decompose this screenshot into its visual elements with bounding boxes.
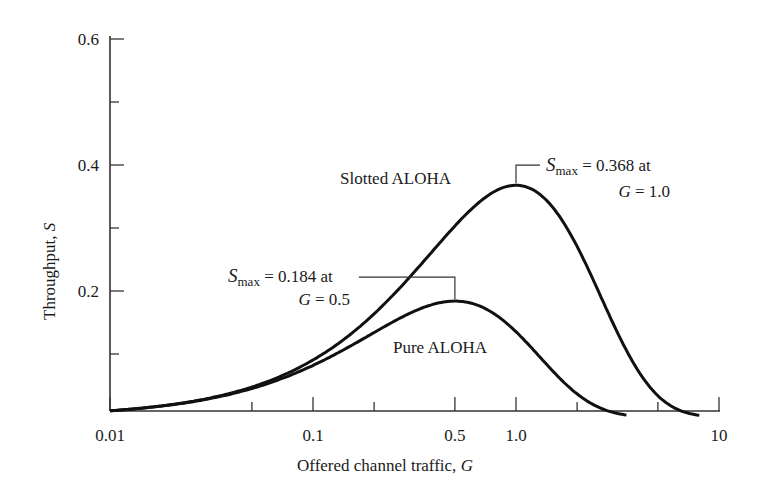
x-tick-label: 10 — [711, 426, 728, 445]
slotted-aloha-label: Slotted ALOHA — [340, 169, 452, 188]
y-axis-title: Throughput, S — [40, 222, 59, 320]
slotted-aloha-curve — [110, 185, 699, 415]
svg-text:Smax = 0.368 at: Smax = 0.368 at — [546, 154, 651, 178]
svg-text:G = 1.0: G = 1.0 — [618, 182, 670, 201]
annot-pure-sub: max — [238, 274, 261, 289]
x-tick-label: 0.01 — [95, 426, 125, 445]
annot-pure-g-value: = 0.5 — [311, 290, 350, 309]
y-axis: 0.20.40.6 — [78, 30, 124, 411]
y-ticks: 0.20.40.6 — [78, 30, 124, 354]
annot-slotted-g-var: G — [618, 182, 630, 201]
slotted-max-annotation: Smax = 0.368 at G = 1.0 — [546, 154, 670, 201]
x-ticks: 0.010.10.51.010 — [95, 397, 727, 445]
y-tick-label: 0.2 — [78, 282, 99, 301]
y-tick-label: 0.6 — [78, 30, 99, 49]
annot-slotted-g-value: = 1.0 — [631, 182, 670, 201]
svg-text:G = 0.5: G = 0.5 — [298, 290, 350, 309]
x-tick-label: 1.0 — [505, 426, 526, 445]
pure-aloha-label: Pure ALOHA — [393, 338, 488, 357]
annot-pure-var: S — [228, 265, 238, 286]
pure-max-annotation: Smax = 0.184 at G = 0.5 — [228, 265, 350, 309]
annot-slotted-sub: max — [556, 163, 579, 178]
aloha-throughput-chart: 0.20.40.6 0.010.10.51.010 Smax = 0.368 a… — [0, 0, 766, 496]
annot-pure-value: = 0.184 at — [260, 267, 333, 286]
x-tick-label: 0.1 — [302, 426, 323, 445]
x-axis: 0.010.10.51.010 — [95, 397, 727, 445]
annot-pure-g-var: G — [298, 290, 310, 309]
annot-slotted-var: S — [546, 154, 556, 175]
svg-text:Smax = 0.184 at: Smax = 0.184 at — [228, 265, 333, 289]
x-axis-title: Offered channel traffic, G — [297, 456, 473, 475]
y-tick-label: 0.4 — [78, 156, 100, 175]
slotted-max-leader-line — [516, 165, 540, 183]
x-tick-label: 0.5 — [444, 426, 465, 445]
annot-slotted-value: = 0.368 at — [578, 156, 651, 175]
